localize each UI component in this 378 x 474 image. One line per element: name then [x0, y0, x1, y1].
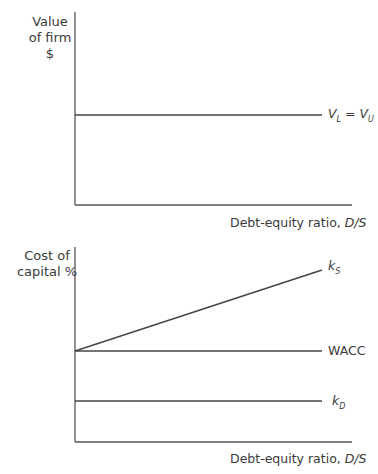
ks-label: kS	[328, 258, 340, 276]
ylabel-line: Cost of	[14, 248, 80, 264]
ylabel-line: of firm	[22, 30, 78, 46]
ks-line	[75, 270, 322, 351]
vl-vu-label: VL = VU	[328, 106, 374, 124]
ylabel-line: Value	[22, 14, 78, 30]
ylabel-line: capital %	[14, 264, 80, 280]
top-y-axis-label: Value of firm $	[22, 14, 78, 62]
ylabel-line: $	[22, 46, 78, 62]
bottom-y-axis-label: Cost of capital %	[14, 248, 80, 280]
wacc-label: WACC	[328, 343, 365, 358]
chart-canvas	[0, 0, 378, 474]
bottom-x-axis-label: Debt-equity ratio, D/S	[230, 451, 367, 466]
kd-label: kD	[332, 393, 345, 411]
top-x-axis-label: Debt-equity ratio, D/S	[230, 215, 367, 230]
